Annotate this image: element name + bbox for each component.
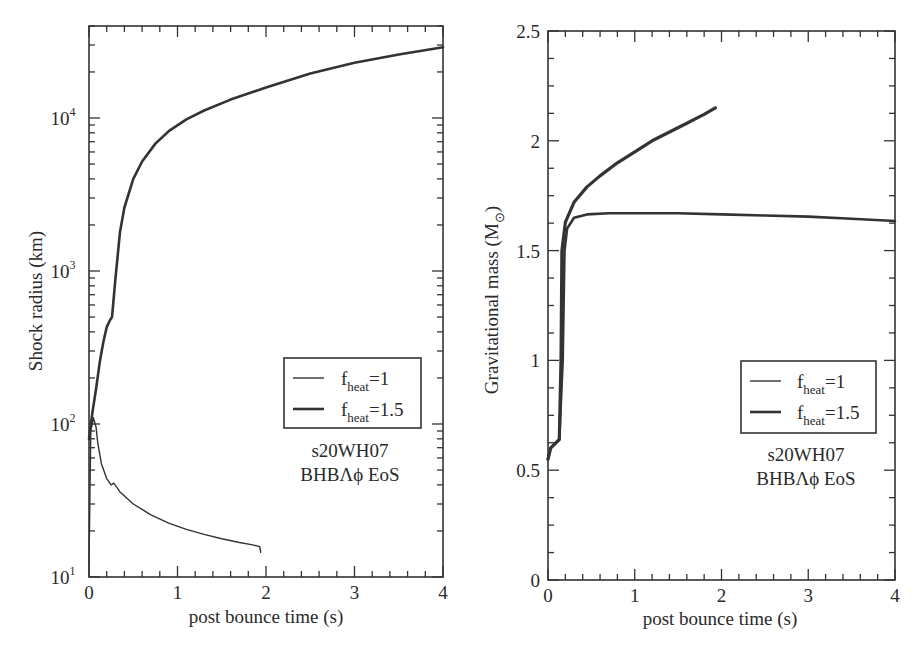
left-axis-ticks: [89, 26, 443, 577]
left-tick-labels: 01234101102103104: [51, 105, 449, 603]
gravitational-mass-panel: 0123400.511.522.5 post bounce time (s) G…: [481, 21, 900, 630]
left-curves: [89, 47, 443, 565]
x-tick-label: 0: [543, 585, 553, 606]
left-x-axis-label: post bounce time (s): [189, 606, 344, 628]
right-tick-labels: 0123400.511.522.5: [516, 21, 900, 606]
left-annotation-eos: BHBΛϕ EoS: [300, 464, 399, 485]
x-tick-label: 4: [438, 582, 448, 603]
figure: 01234101102103104 post bounce time (s) S…: [0, 0, 919, 652]
right-annotation-model: s20WH07: [767, 444, 844, 465]
x-tick-label: 4: [890, 585, 900, 606]
x-tick-label: 2: [261, 582, 271, 603]
y-tick-label: 1.5: [516, 241, 540, 262]
y-tick-label: 2: [531, 131, 541, 152]
left-legend-item-1: fheat=1.5: [341, 399, 403, 425]
right-legend: fheat=1 fheat=1.5: [741, 361, 876, 433]
x-tick-label: 0: [84, 582, 94, 603]
right-legend-item-0: fheat=1: [797, 371, 845, 397]
x-tick-label: 3: [804, 585, 814, 606]
y-tick-label: 1: [531, 350, 541, 371]
curve-fheat-1: [548, 108, 715, 459]
left-plot-frame: [89, 26, 443, 577]
left-annotation-model: s20WH07: [311, 440, 388, 461]
y-tick-label: 102: [51, 411, 76, 435]
y-tick-label: 104: [51, 105, 76, 129]
y-tick-label: 101: [51, 564, 76, 588]
left-legend: fheat=1 fheat=1.5: [284, 358, 421, 428]
x-tick-label: 2: [717, 585, 727, 606]
right-axis-ticks: [548, 31, 895, 580]
x-tick-label: 1: [630, 585, 640, 606]
y-tick-label: 0: [531, 570, 541, 591]
right-legend-item-1: fheat=1.5: [797, 402, 859, 428]
right-y-axis-label: Gravitational mass (M⊙): [481, 206, 507, 394]
x-tick-label: 1: [173, 582, 183, 603]
y-tick-label: 0.5: [516, 460, 540, 481]
left-y-axis-label: Shock radius (km): [25, 231, 47, 371]
right-plot-frame: [548, 31, 895, 580]
y-tick-label: 2.5: [516, 21, 540, 42]
x-tick-label: 3: [350, 582, 360, 603]
curve-fheat-1: [89, 418, 261, 565]
curve-fheat-1-5: [89, 47, 443, 439]
right-x-axis-label: post bounce time (s): [643, 608, 798, 630]
y-tick-label: 103: [51, 258, 76, 282]
left-legend-item-0: fheat=1: [341, 368, 389, 394]
right-annotation-eos: BHBΛϕ EoS: [756, 468, 855, 489]
shock-radius-panel: 01234101102103104 post bounce time (s) S…: [25, 26, 448, 628]
